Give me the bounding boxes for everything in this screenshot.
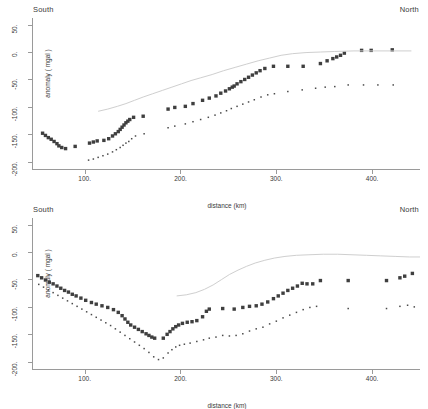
y-axis-tick-mark [28,334,32,335]
data-point [301,65,304,68]
data-point [74,294,77,297]
data-point [55,284,58,287]
orientation-label-south-bottom: South [33,205,54,214]
x-axis-tick-mark [372,370,373,374]
profile-panel-top: South North anomaly ( mgal ) distance (k… [0,0,428,198]
data-point [129,323,132,326]
series-observed-anomaly [41,48,394,150]
data-point [331,57,334,60]
data-point [84,299,87,302]
data-point [112,151,114,153]
profile-panel-bottom: South North anomaly ( mgal ) distance (k… [0,200,428,398]
data-point [95,317,97,319]
data-point [167,352,169,354]
data-point [291,287,294,290]
y-axis-tick-mark [28,162,32,163]
data-point [73,145,76,148]
data-point [57,295,59,297]
data-point [346,279,349,282]
data-point [260,96,262,98]
y-axis-tick-mark [28,134,32,135]
data-point [143,348,145,350]
data-point [120,314,123,317]
data-point [88,141,91,144]
data-point [141,115,144,118]
data-point [102,139,105,142]
data-point [399,306,401,308]
y-axis-tick-mark [28,279,32,280]
data-point [112,308,115,311]
data-point [302,309,304,311]
x-axis-tick-mark [276,370,277,374]
orientation-label-south-top: South [33,5,54,14]
data-point [319,62,322,65]
data-point [325,59,328,62]
x-axis-tick-label: 200. [174,175,187,182]
x-axis-tick-mark [85,370,86,374]
data-point [222,335,224,337]
data-point [163,357,165,359]
data-point [107,153,109,155]
data-point [59,287,62,290]
data-point [116,149,118,151]
orientation-label-north-top: North [400,5,419,14]
data-point [377,84,379,86]
data-point [62,297,64,299]
data-point [185,123,187,125]
data-point [67,290,70,293]
data-point [67,300,69,302]
data-point [91,314,93,316]
data-point [214,94,217,97]
data-point [117,311,120,314]
data-point [411,272,414,275]
data-point [339,54,342,57]
data-point [119,147,121,149]
data-point [319,279,322,282]
data-point [386,308,388,310]
y-axis-tick-label: -200. [11,161,18,201]
data-point [243,78,246,81]
data-point [287,91,289,93]
y-axis-tick-mark [28,107,32,108]
data-point [189,342,191,344]
data-point [208,307,211,310]
data-point [71,293,74,296]
data-point [305,282,308,285]
data-point [249,330,251,332]
data-point [184,105,187,108]
data-point [153,336,156,339]
data-point [414,306,416,308]
data-point [242,333,244,335]
data-point [221,307,224,310]
data-point [119,331,121,333]
data-point [131,138,133,140]
data-point [274,93,276,95]
x-axis-tick-label: 400. [366,175,379,182]
plot-frame-bottom: anomaly ( mgal ) distance (km) [32,218,420,370]
data-point [272,65,275,68]
data-point [192,121,194,123]
data-point [360,49,363,52]
data-point [276,320,278,322]
series-secondary-anomaly [88,84,394,161]
data-point [143,133,145,135]
data-point [277,294,280,297]
data-point [177,323,180,326]
x-axis-title-bottom: distance (km) [33,402,421,409]
data-point [219,91,222,94]
data-point [231,108,233,110]
data-point [254,99,256,101]
data-point [97,157,99,159]
data-point [224,89,227,92]
series-observed-anomaly [36,272,414,340]
data-point [36,274,39,277]
data-point [162,336,165,339]
data-point [347,308,349,310]
data-point [267,94,269,96]
x-axis-tick-label: 200. [174,375,187,382]
x-axis-tick-label: 100. [78,375,91,382]
series-model-curve [177,254,420,296]
data-point [181,322,184,325]
data-point [236,106,238,108]
data-point [51,282,54,285]
